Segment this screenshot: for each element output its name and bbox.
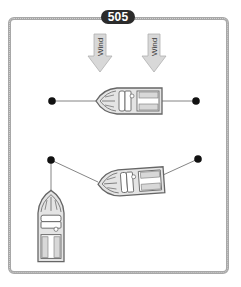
mooring-line: [163, 159, 198, 175]
buoy-icon: [47, 156, 55, 164]
mooring-line: [51, 160, 98, 182]
buoy-icon: [192, 97, 200, 105]
mooring-diagram: Wind Wind: [0, 0, 241, 287]
boat-icon: [96, 88, 162, 114]
middle-mooring-scene: [47, 155, 202, 197]
wind-arrow-right: Wind: [142, 34, 166, 72]
boat-icon: [97, 167, 165, 198]
wind-label-right: Wind: [150, 38, 159, 56]
top-mooring-scene: [48, 88, 200, 114]
buoy-icon: [194, 155, 202, 163]
wind-label-left: Wind: [96, 38, 105, 56]
wind-arrow-left: Wind: [88, 34, 112, 72]
buoy-icon: [48, 97, 56, 105]
approaching-boat-icon: [38, 190, 64, 261]
